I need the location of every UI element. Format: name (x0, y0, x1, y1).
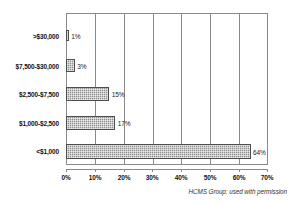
bar-value-label: 3% (77, 62, 86, 69)
attribution-note: HCMS Group: used with permission (189, 188, 288, 195)
x-axis-tick (210, 169, 211, 172)
x-axis-tick (95, 169, 96, 172)
x-axis-tick-label: 10% (89, 174, 102, 181)
x-axis-tick (66, 169, 67, 172)
bar-gt-30000 (66, 30, 69, 41)
x-axis-line (66, 169, 268, 170)
x-axis-tick-label: 0% (61, 174, 70, 181)
x-axis-tick-label: 60% (233, 174, 246, 181)
x-axis-tick (267, 169, 268, 172)
y-axis-tick-label: $1,000-$2,500 (19, 120, 59, 127)
x-axis-tick (152, 169, 153, 172)
y-axis-tick-label: <$1,000 (36, 148, 59, 155)
x-axis-tick (124, 169, 125, 172)
bar-7500-30000 (66, 59, 75, 72)
x-axis-tick-label: 70% (261, 174, 274, 181)
bar-2500-7500 (66, 87, 109, 101)
plot-area: 1% 3% 15% 17% 64% (66, 13, 268, 165)
bar-group: 1% 3% 15% 17% 64% (66, 13, 268, 165)
y-axis-tick-label: $2,500-$7,500 (19, 91, 59, 98)
bar-row: 17% (66, 116, 268, 130)
x-axis-tick (239, 169, 240, 172)
bar-value-label: 64% (253, 148, 266, 155)
bar-row: 15% (66, 87, 268, 101)
y-axis-tick-label: >$30,000 (33, 33, 59, 40)
x-axis-tick-label: 20% (118, 174, 131, 181)
bar-1000-2500 (66, 116, 115, 130)
x-axis-tick-label: 50% (204, 174, 217, 181)
bar-value-label: 1% (71, 32, 80, 39)
x-axis-tick-label: 40% (175, 174, 188, 181)
x-axis-tick (181, 169, 182, 172)
bar-lt-1000 (66, 144, 251, 159)
x-axis-tick-label: 30% (146, 174, 159, 181)
y-axis-labels: >$30,000 $7,500-$30,000 $2,500-$7,500 $1… (0, 13, 63, 165)
bar-row: 1% (66, 30, 268, 41)
bar-chart: >$30,000 $7,500-$30,000 $2,500-$7,500 $1… (0, 0, 295, 205)
bar-value-label: 17% (118, 120, 131, 127)
bar-row: 3% (66, 59, 268, 72)
bar-row: 64% (66, 144, 268, 159)
bar-value-label: 15% (112, 91, 125, 98)
y-axis-tick-label: $7,500-$30,000 (16, 63, 59, 70)
